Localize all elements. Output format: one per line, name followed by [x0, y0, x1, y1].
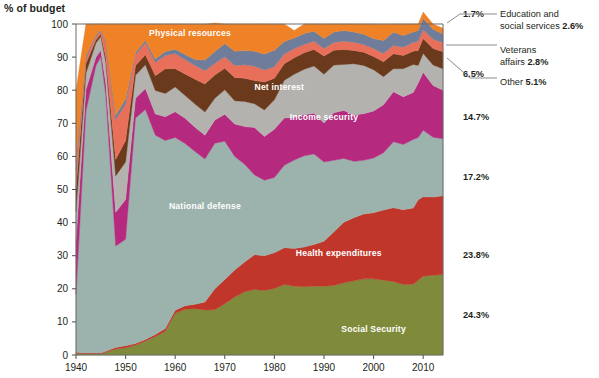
y-tick-label: 0 — [62, 350, 68, 361]
stacked-areas-group — [76, 12, 443, 355]
y-tick-label: 20 — [57, 283, 69, 294]
callout-veterans: Veteransaffairs 2.8% — [500, 44, 548, 69]
callout-other: Other 5.1% — [500, 76, 546, 88]
callout-line: Veterans — [500, 44, 548, 56]
series-label-physical-resources: Physical resources — [149, 28, 231, 38]
series-label-net-interest: Net interest — [254, 82, 304, 92]
y-tick-label: 90 — [57, 52, 69, 63]
leader-line — [447, 58, 470, 78]
series-label-health-expenditures: Health expenditures — [296, 248, 382, 258]
x-tick-label: 1980 — [263, 362, 286, 373]
y-tick-label: 10 — [57, 316, 69, 327]
y-tick-label: 100 — [51, 19, 68, 30]
callout-line: Education and — [500, 8, 583, 20]
callout-value: 2.8% — [527, 57, 548, 67]
y-axis: 0102030405060708090100 — [51, 19, 76, 361]
edge-pct-national-defense: 17.2% — [463, 172, 489, 182]
edge-pct-social-security: 24.3% — [463, 310, 489, 320]
x-tick-label: 1970 — [214, 362, 237, 373]
callout-line: Other 5.1% — [500, 76, 546, 88]
edge-percent-labels-group: 24.3%23.8%17.2%14.7%6.5%1.7% — [463, 9, 489, 320]
y-tick-label: 60 — [57, 151, 69, 162]
series-label-income-security: Income security — [290, 112, 358, 122]
x-tick-label: 1960 — [164, 362, 187, 373]
x-tick-label: 2010 — [412, 362, 435, 373]
x-axis: 19401950196019701980199020002010 — [65, 355, 435, 373]
y-tick-label: 80 — [57, 85, 69, 96]
leader-line — [447, 14, 460, 23]
callout-value: 5.1% — [526, 77, 547, 87]
y-tick-label: 40 — [57, 217, 69, 228]
y-tick-label: 70 — [57, 118, 69, 129]
x-tick-label: 1990 — [313, 362, 336, 373]
callout-line: social services 2.6% — [500, 20, 583, 32]
edge-pct-income-security: 14.7% — [463, 112, 489, 122]
x-tick-label: 2000 — [362, 362, 385, 373]
y-tick-label: 50 — [57, 184, 69, 195]
x-tick-label: 1950 — [114, 362, 137, 373]
edge-pct-health-expenditures: 23.8% — [463, 250, 489, 260]
series-label-social-security: Social Security — [341, 324, 406, 334]
y-tick-label: 30 — [57, 250, 69, 261]
callout-line: affairs 2.8% — [500, 56, 548, 68]
callout-value: 2.6% — [562, 21, 583, 31]
series-label-national-defense: National defense — [169, 201, 241, 211]
callout-education: Education andsocial services 2.6% — [500, 8, 583, 33]
x-tick-label: 1940 — [65, 362, 88, 373]
budget-area-chart: % of budget 0102030405060708090100 19401… — [0, 0, 599, 378]
